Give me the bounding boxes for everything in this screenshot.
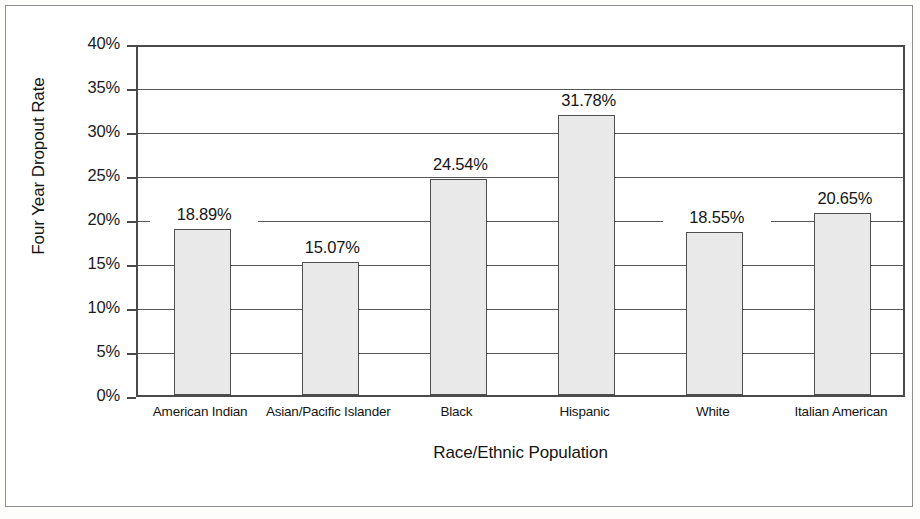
y-tick-label-0: 0% <box>62 386 120 405</box>
gridline-25 <box>138 177 903 178</box>
y-tick-mark-25 <box>127 177 136 179</box>
y-tick-mark-10 <box>127 309 136 311</box>
y-tick-mark-20 <box>127 221 136 223</box>
y-tick-label-25: 25% <box>62 166 120 185</box>
y-tick-label-35: 35% <box>62 78 120 97</box>
gridline-5 <box>138 353 903 354</box>
y-tick-label-30: 30% <box>62 122 120 141</box>
y-tick-mark-35 <box>127 89 136 91</box>
gridline-40 <box>138 45 903 47</box>
y-axis-title: Four Year Dropout Rate <box>29 56 49 276</box>
gridline-35 <box>138 89 903 90</box>
bar <box>430 179 487 395</box>
bar-value-label: 31.78% <box>535 91 643 110</box>
y-tick-label-5: 5% <box>62 342 120 361</box>
y-tick-mark-15 <box>127 265 136 267</box>
bar <box>302 262 359 395</box>
y-tick-label-20: 20% <box>62 210 120 229</box>
gridline-10 <box>138 309 903 310</box>
x-category-label: Asian/Pacific Islander <box>264 404 392 419</box>
y-tick-mark-5 <box>127 353 136 355</box>
bar <box>814 213 871 395</box>
gridline-15 <box>138 265 903 266</box>
x-category-label: American Indian <box>136 404 264 419</box>
x-category-label: Black <box>392 404 520 419</box>
bar-chart-figure: Four Year Dropout Rate 0%5%10%15%20%25%3… <box>0 0 920 519</box>
y-tick-mark-30 <box>127 133 136 135</box>
bar <box>558 115 615 395</box>
bar-value-label: 24.54% <box>406 155 514 174</box>
y-tick-label-15: 15% <box>62 254 120 273</box>
x-axis-title: Race/Ethnic Population <box>136 443 905 463</box>
bar <box>174 229 231 395</box>
x-category-label: Italian American <box>777 404 905 419</box>
x-category-label: Hispanic <box>521 404 649 419</box>
y-tick-label-10: 10% <box>62 298 120 317</box>
gridline-30 <box>138 133 903 134</box>
bar <box>686 232 743 395</box>
y-tick-label-40: 40% <box>62 34 120 53</box>
x-category-label: White <box>649 404 777 419</box>
bar-value-label: 18.55% <box>663 208 771 227</box>
bar-value-label: 15.07% <box>278 238 386 257</box>
bar-value-label: 18.89% <box>150 205 258 224</box>
y-tick-mark-40 <box>127 45 136 47</box>
y-tick-mark-0 <box>127 397 136 399</box>
bar-value-label: 20.65% <box>791 189 899 208</box>
